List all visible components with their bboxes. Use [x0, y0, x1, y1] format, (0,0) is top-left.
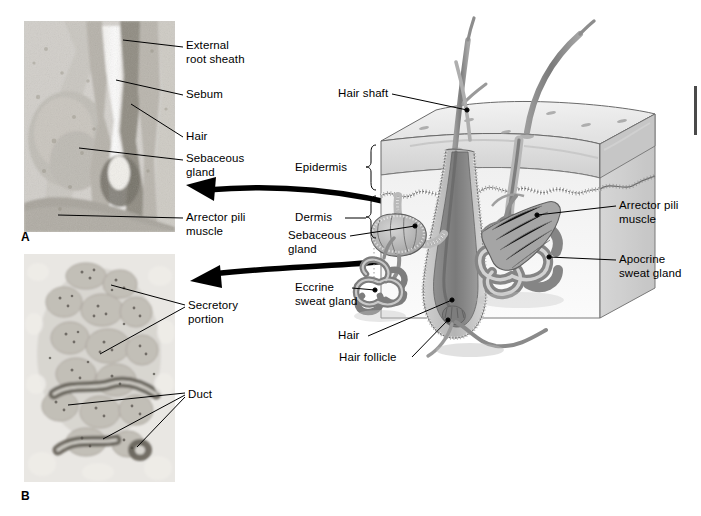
label-hair-diagram: Hair [338, 329, 360, 343]
label-eccrine-sweat-gland: Eccrine sweat gland [295, 281, 357, 308]
label-epidermis: Epidermis [295, 161, 347, 175]
page-edge-bar [694, 86, 697, 135]
label-apocrine-sweat-gland: Apocrine sweat gland [619, 253, 681, 280]
label-dermis: Dermis [295, 211, 332, 225]
label-sebaceous-gland-diagram: Sebaceous gland [288, 229, 346, 256]
label-hair-shaft: Hair shaft [338, 87, 388, 101]
skin-block-diagram [0, 0, 701, 516]
epidermis-brace [366, 145, 376, 190]
label-hair-follicle: Hair follicle [339, 351, 397, 365]
figure-canvas: A [0, 0, 701, 516]
label-arrector-pili-muscle-diagram: Arrector pili muscle [619, 199, 678, 226]
